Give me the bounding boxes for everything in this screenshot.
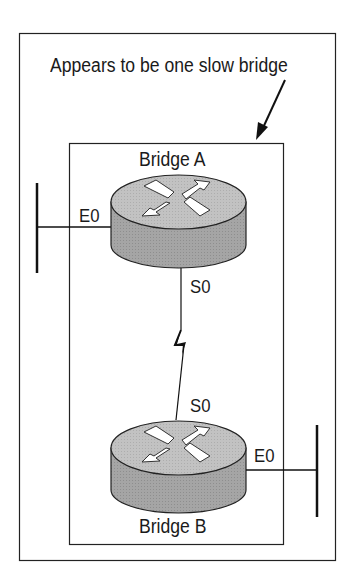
bridge-a-router-icon xyxy=(111,175,246,268)
bridge-a-e0-label: E0 xyxy=(79,205,99,227)
serial-link xyxy=(174,268,186,420)
bridge-b-s0-label: S0 xyxy=(190,395,210,417)
diagram-caption: Appears to be one slow bridge xyxy=(50,54,288,77)
diagram-canvas xyxy=(0,0,354,581)
bridge-a-label: Bridge A xyxy=(139,148,206,171)
bridge-b-label: Bridge B xyxy=(139,515,207,538)
bridge-b-router-icon xyxy=(111,421,246,513)
caption-arrow xyxy=(256,80,285,140)
bridge-a-s0-label: S0 xyxy=(190,276,210,298)
bridge-b-e0-label: E0 xyxy=(254,445,274,467)
